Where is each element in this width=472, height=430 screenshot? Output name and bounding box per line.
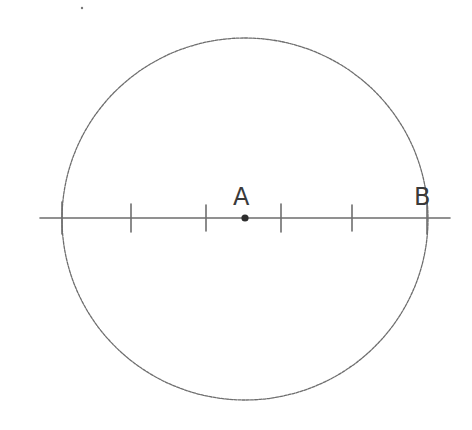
point-a-label: A bbox=[233, 183, 250, 211]
stray-pencil-mark bbox=[81, 7, 83, 9]
point-a-dot bbox=[241, 214, 248, 221]
diagram-canvas: A B bbox=[0, 0, 472, 430]
point-b-label: B bbox=[414, 183, 430, 211]
